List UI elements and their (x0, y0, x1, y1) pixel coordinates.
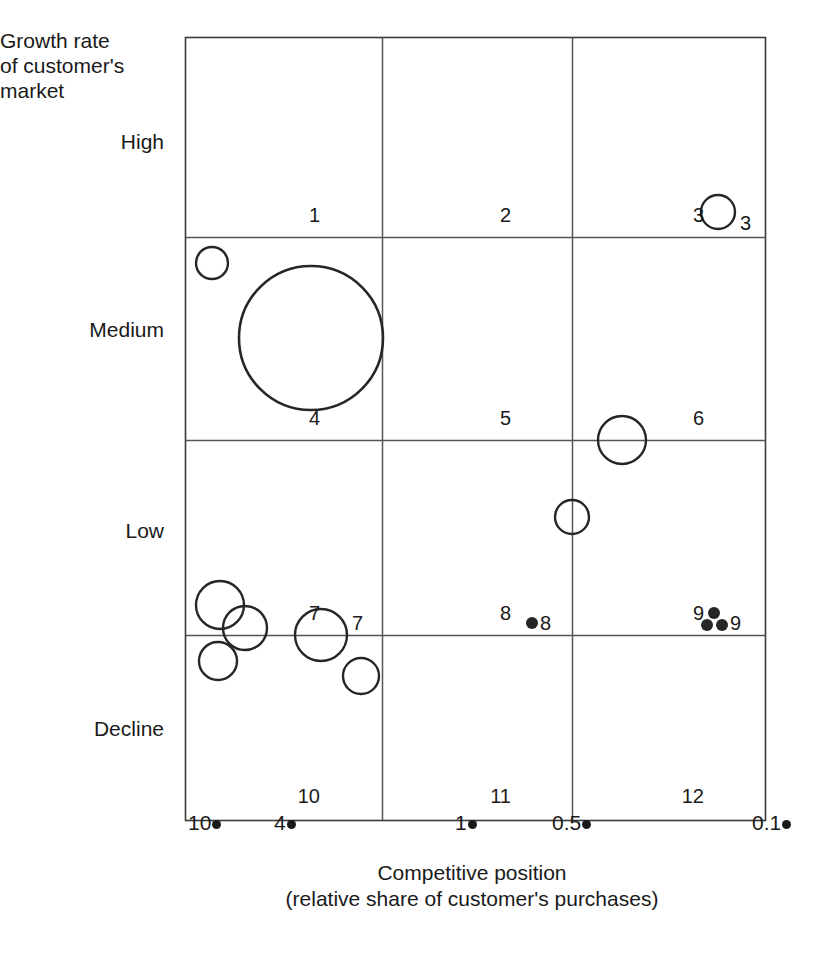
cell-number-7: 7 (280, 603, 320, 623)
cell-number-4: 4 (280, 408, 320, 428)
x-tick-dot-icon (582, 820, 591, 829)
x-tick-dot-icon (468, 820, 477, 829)
data-point-bubble (701, 195, 735, 229)
data-point-dot (708, 607, 720, 619)
cell-number-1: 1 (280, 205, 320, 225)
data-point-bubble (223, 606, 267, 650)
x-tick-1: 1 (455, 812, 477, 834)
bubble-label-9: 9 (730, 613, 741, 633)
cell-number-6: 6 (664, 408, 704, 428)
cell-number-5: 5 (471, 408, 511, 428)
data-point-bubble (343, 658, 379, 694)
x-tick-0-1: 0.1 (752, 812, 791, 834)
y-axis-title: Growth rate of customer's market (0, 28, 172, 103)
grid-lines (186, 38, 766, 821)
x-tick-dot-icon (212, 820, 221, 829)
x-tick-label: 10 (188, 811, 211, 834)
cell-number-11: 11 (471, 786, 511, 806)
data-point-dot (526, 617, 538, 629)
data-point-bubble (196, 247, 228, 279)
cell-number-8: 8 (471, 603, 511, 623)
data-point-bubble (196, 581, 244, 629)
x-tick-0-5: 0.5 (552, 812, 591, 834)
y-tick-label-low: Low (0, 520, 172, 542)
x-axis-title: Competitive position (relative share of … (172, 860, 772, 912)
x-tick-label: 4 (274, 811, 286, 834)
x-tick-dot-icon (782, 820, 791, 829)
x-tick-10: 10 (188, 812, 221, 834)
y-tick-label-medium: Medium (0, 319, 172, 341)
cell-number-9: 9 (664, 603, 704, 623)
y-tick-label-high: High (0, 131, 172, 153)
cell-number-10: 10 (280, 786, 320, 806)
cell-number-12: 12 (664, 786, 704, 806)
cell-number-3: 3 (664, 205, 704, 225)
data-point-bubble (598, 416, 646, 464)
cell-number-2: 2 (471, 205, 511, 225)
x-tick-dot-icon (287, 820, 296, 829)
bubble-label-7: 7 (352, 613, 363, 633)
data-point-bubble (555, 500, 589, 534)
bubble-label-8: 8 (540, 613, 551, 633)
bubble-matrix-figure: Growth rate of customer's market High Me… (0, 0, 825, 953)
x-tick-label: 0.5 (552, 811, 581, 834)
x-tick-4: 4 (274, 812, 296, 834)
bubble-series (196, 195, 735, 694)
x-tick-label: 0.1 (752, 811, 781, 834)
data-point-dot (716, 619, 728, 631)
y-tick-label-decline: Decline (0, 718, 172, 740)
bubble-label-3: 3 (740, 213, 751, 233)
data-point-bubble (199, 642, 237, 680)
x-tick-label: 1 (455, 811, 467, 834)
data-point-bubble (239, 266, 383, 410)
plot-frame (186, 38, 766, 821)
